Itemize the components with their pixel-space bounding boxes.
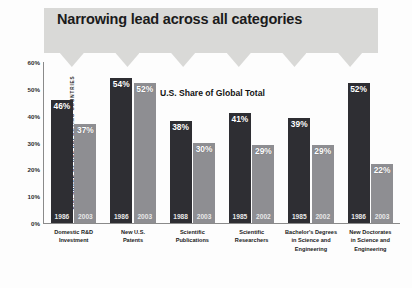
bar[interactable]: 37%2003 (74, 124, 96, 223)
bar[interactable]: 30%2003 (193, 143, 215, 224)
bar[interactable]: 39%1985 (288, 118, 310, 223)
bar-year-label: 1986 (114, 214, 129, 221)
bar-value-label: 29% (255, 147, 272, 155)
bar-value-label: 37% (77, 126, 94, 134)
bar-value-label: 54% (113, 80, 130, 88)
category-label-line: Bachelor's Degrees (281, 228, 340, 236)
x-axis-line (43, 223, 400, 224)
bar[interactable]: 46%1986 (51, 100, 73, 223)
bar-group: 54%198652%2003 (110, 78, 156, 223)
bar-year-label: 1985 (292, 214, 307, 221)
category-label: Domestic R&DInvestment (44, 228, 103, 245)
bar-value-label: 46% (54, 102, 71, 110)
bar[interactable]: 52%1986 (348, 83, 370, 223)
y-axis-tick-label: 20% (28, 166, 40, 173)
category-label-line: in Science and (341, 236, 400, 244)
category-label: ScientificResearchers (222, 228, 281, 245)
bar-year-label: 2003 (197, 214, 212, 221)
bar-year-label: 2003 (78, 214, 93, 221)
bar-group: 52%198622%2003 (348, 83, 394, 223)
bar-value-label: 22% (374, 166, 391, 174)
bar-value-label: 30% (196, 145, 213, 153)
bar-group: 46%198637%2003 (51, 100, 97, 223)
category-label-line: Scientific (222, 228, 281, 236)
bar-year-label: 1986 (55, 214, 70, 221)
bar-value-label: 41% (232, 115, 249, 123)
y-axis-tick-label: 10% (28, 193, 40, 200)
category-label-line: Engineering (341, 245, 400, 253)
bar-group: 41%198529%2002 (229, 113, 275, 223)
y-axis-tick-label: 50% (28, 85, 40, 92)
plot-area: 60%50%40%30%20%10%0% 46%198637%200354%19… (44, 62, 400, 223)
bar-year-label: 2002 (315, 214, 330, 221)
bar-value-label: 52% (350, 85, 367, 93)
bar[interactable]: 41%1985 (229, 113, 251, 223)
chart-title: U.S. Share of Global Total (160, 88, 265, 98)
category-label-line: Investment (44, 236, 103, 244)
bar-year-label: 2003 (137, 214, 152, 221)
bar-year-label: 1988 (173, 214, 188, 221)
bar[interactable]: 22%2003 (371, 164, 393, 223)
y-axis-tick-label: 40% (28, 112, 40, 119)
category-label-line: Patents (103, 236, 162, 244)
bar[interactable]: 29%2002 (252, 145, 274, 223)
bar[interactable]: 29%2002 (312, 145, 334, 223)
category-label-line: Scientific (163, 228, 222, 236)
category-label-line: New U.S. (103, 228, 162, 236)
category-label-line: Engineering (281, 245, 340, 253)
category-label: ScientificPublications (163, 228, 222, 245)
bar[interactable]: 52%2003 (134, 83, 156, 223)
category-label-line: Domestic R&D (44, 228, 103, 236)
bar[interactable]: 38%1988 (170, 121, 192, 223)
bar-value-label: 39% (291, 120, 308, 128)
category-label-line: Publications (163, 236, 222, 244)
category-label-line: Researchers (222, 236, 281, 244)
bar-value-label: 52% (136, 85, 153, 93)
category-label: Bachelor's Degreesin Science andEngineer… (281, 228, 340, 253)
bar[interactable]: 54%1986 (110, 78, 132, 223)
y-axis-tick-label: 0% (31, 220, 40, 227)
category-label: New Doctoratesin Science andEngineering (341, 228, 400, 253)
bar-group: 39%198529%2002 (288, 118, 334, 223)
y-axis-tick-label: 30% (28, 139, 40, 146)
category-label-line: New Doctorates (341, 228, 400, 236)
bar-value-label: 29% (314, 147, 331, 155)
figure: Narrowing lead across all categories U.S… (0, 0, 412, 288)
banner-title: Narrowing lead across all categories (57, 11, 357, 29)
bar-year-label: 2003 (375, 214, 390, 221)
bar-group: 38%198830%2003 (170, 121, 216, 223)
category-label: New U.S.Patents (103, 228, 162, 245)
bar-year-label: 2002 (256, 214, 271, 221)
bar-value-label: 38% (172, 123, 189, 131)
bar-year-label: 1986 (351, 214, 366, 221)
y-axis-tick-label: 60% (28, 59, 40, 66)
bar-year-label: 1985 (233, 214, 248, 221)
category-label-line: in Science and (281, 236, 340, 244)
